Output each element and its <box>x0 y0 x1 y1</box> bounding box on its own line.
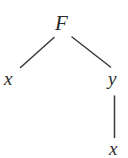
tree-node-right-child: y <box>108 69 116 88</box>
tree-node-left-child: x <box>4 69 12 88</box>
edge-root-to-left-child <box>21 38 55 68</box>
edge-root-to-right-child <box>72 37 111 67</box>
tree-diagram-figure: F x y x <box>0 0 128 158</box>
tree-node-grandchild: x <box>109 139 117 158</box>
tree-node-root: F <box>55 13 68 34</box>
